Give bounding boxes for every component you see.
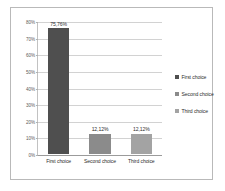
y-axis-tick-mark	[36, 89, 38, 90]
x-axis-label-third-choice: Third choice	[128, 158, 155, 164]
y-axis-tick-label: 10%	[26, 136, 35, 141]
plot-area: 0%10%20%30%40%50%60%70%80% 75,76%First c…	[37, 22, 162, 156]
bar-group: 75,76%First choice	[48, 21, 69, 154]
y-axis-tick-mark	[36, 55, 38, 56]
y-axis-tick-mark	[36, 155, 38, 156]
y-axis-tick-mark	[36, 138, 38, 139]
y-axis-tick-label: 80%	[26, 20, 35, 25]
legend-swatch-icon	[175, 75, 179, 79]
y-axis-tick-label: 30%	[26, 103, 35, 108]
y-axis-tick-label: 0%	[28, 153, 35, 158]
y-axis-tick-mark	[36, 105, 38, 106]
bar-first-choice[interactable]	[48, 28, 69, 154]
chart-legend: First choiceSecond choiceThird choice	[175, 74, 214, 114]
legend-item-label: Third choice	[182, 108, 209, 114]
legend-swatch-icon	[175, 92, 179, 96]
chart-container: 0%10%20%30%40%50%60%70%80% 75,76%First c…	[10, 7, 213, 180]
legend-item-label: Second choice	[182, 91, 214, 97]
y-axis-tick-label: 70%	[26, 36, 35, 41]
bar-value-label: 12,12%	[92, 126, 109, 132]
legend-item-third-choice[interactable]: Third choice	[175, 108, 214, 114]
bar-value-label: 12,12%	[133, 126, 150, 132]
legend-swatch-icon	[175, 109, 179, 113]
bar-second-choice[interactable]	[89, 134, 110, 154]
legend-item-label: First choice	[182, 74, 207, 80]
y-axis-tick-label: 40%	[26, 86, 35, 91]
y-axis-tick-mark	[36, 72, 38, 73]
bar-third-choice[interactable]	[131, 134, 152, 154]
legend-item-first-choice[interactable]: First choice	[175, 74, 214, 80]
legend-item-second-choice[interactable]: Second choice	[175, 91, 214, 97]
y-axis-tick-label: 50%	[26, 69, 35, 74]
bar-group: 12,12%Third choice	[131, 21, 152, 154]
y-axis-tick-mark	[36, 22, 38, 23]
y-axis-tick-label: 60%	[26, 53, 35, 58]
y-axis-tick-label: 20%	[26, 119, 35, 124]
x-axis-label-second-choice: Second choice	[84, 158, 116, 164]
x-axis-label-first-choice: First choice	[46, 158, 71, 164]
y-axis-tick-mark	[36, 122, 38, 123]
y-axis-tick-mark	[36, 39, 38, 40]
bar-value-label: 75,76%	[50, 21, 67, 27]
bar-group: 12,12%Second choice	[89, 21, 110, 154]
